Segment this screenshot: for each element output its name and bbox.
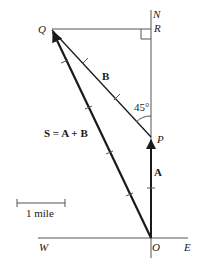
label-vector-B: B — [102, 70, 110, 82]
label-E: E — [183, 241, 191, 253]
label-R: R — [153, 22, 161, 34]
tick-mark — [82, 58, 88, 64]
label-scale: 1 mile — [26, 207, 54, 219]
label-angle: 45° — [134, 101, 149, 113]
label-O: O — [152, 241, 160, 253]
label-P: P — [156, 133, 164, 145]
vector-B — [52, 30, 151, 137]
right-angle-marker — [141, 29, 151, 39]
vector-diagram: Q R N P O W E B A S = A + B 45° 1 mile — [0, 0, 202, 263]
tick-mark — [114, 94, 120, 100]
label-vector-S: S = A + B — [44, 127, 88, 139]
label-N: N — [152, 8, 161, 20]
label-W: W — [39, 241, 49, 253]
label-vector-A: A — [154, 166, 162, 178]
label-Q: Q — [38, 23, 46, 35]
angle-arc — [136, 116, 151, 122]
